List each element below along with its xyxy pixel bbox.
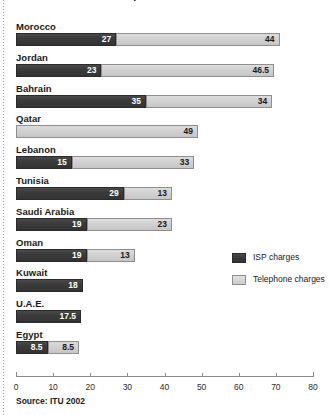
telephone-charges-segment: 13 xyxy=(124,187,172,200)
isp-charges-segment: 19 xyxy=(16,249,87,262)
isp-charges-segment: 17.5 xyxy=(16,310,81,323)
legend-label: ISP charges xyxy=(253,252,299,263)
axis-tick xyxy=(53,373,54,377)
stacked-bar: 8.58.5 xyxy=(16,341,79,354)
stacked-bar: 18 xyxy=(16,279,83,292)
segment-value-label: 19 xyxy=(72,250,85,261)
legend-item: Telephone charges xyxy=(232,274,328,285)
axis-tick xyxy=(90,373,91,377)
segment-value-label: 34 xyxy=(258,96,271,107)
x-axis: 01020304050607080 xyxy=(16,376,313,377)
country-label: Egypt xyxy=(16,329,43,340)
axis-tick xyxy=(276,373,277,377)
axis-tick xyxy=(313,372,314,377)
country-label: Lebanon xyxy=(16,144,56,155)
segment-value-label: 19 xyxy=(72,219,85,230)
country-label: Saudi Arabia xyxy=(16,206,74,217)
axis-tick-label: 80 xyxy=(308,382,317,392)
segment-value-label: 46.5 xyxy=(252,65,273,76)
country-label: U.A.E. xyxy=(16,298,44,309)
segment-value-label: 35 xyxy=(131,96,144,107)
segment-value-label: 33 xyxy=(180,157,193,168)
country-label: Morocco xyxy=(16,21,56,32)
axis-tick-label: 20 xyxy=(86,382,95,392)
bar-chart-plot-area: Morocco2744Jordan2346.5Bahrain3534Qatar4… xyxy=(0,0,330,415)
country-label: Tunisia xyxy=(16,175,49,186)
segment-value-label: 13 xyxy=(157,188,170,199)
axis-tick xyxy=(165,373,166,377)
segment-value-label: 15 xyxy=(57,157,70,168)
segment-value-label: 27 xyxy=(102,34,115,45)
segment-value-label: 23 xyxy=(87,65,100,76)
segment-value-label: 8.5 xyxy=(62,342,78,353)
axis-tick-label: 50 xyxy=(197,382,206,392)
segment-value-label: 17.5 xyxy=(59,311,80,322)
stacked-bar: 1913 xyxy=(16,249,135,262)
stacked-bar: 1923 xyxy=(16,218,172,231)
isp-charges-segment: 35 xyxy=(16,95,146,108)
segment-value-label: 23 xyxy=(157,219,170,230)
telephone-charges-segment: 34 xyxy=(146,95,272,108)
telephone-charges-segment: 49 xyxy=(16,125,198,138)
stacked-bar: 17.5 xyxy=(16,310,81,323)
axis-tick-label: 10 xyxy=(48,382,57,392)
country-label: Bahrain xyxy=(16,83,52,94)
stacked-bar: 2346.5 xyxy=(16,64,274,77)
legend-label: Telephone charges xyxy=(253,274,325,285)
legend-swatch-telephone xyxy=(232,275,246,285)
axis-tick-label: 60 xyxy=(234,382,243,392)
segment-value-label: 29 xyxy=(109,188,122,199)
segment-value-label: 13 xyxy=(120,250,133,261)
country-label: Oman xyxy=(16,237,43,248)
stacked-bar: 3534 xyxy=(16,95,272,108)
telephone-charges-segment: 44 xyxy=(116,33,279,46)
legend-item: ISP charges xyxy=(232,252,328,263)
segment-value-label: 8.5 xyxy=(31,342,47,353)
axis-tick xyxy=(127,373,128,377)
telephone-charges-segment: 46.5 xyxy=(101,64,274,77)
axis-tick-label: 70 xyxy=(271,382,280,392)
isp-charges-segment: 19 xyxy=(16,218,87,231)
axis-tick-label: 0 xyxy=(14,382,19,392)
axis-tick-label: 30 xyxy=(123,382,132,392)
chart-legend: ISP chargesTelephone charges xyxy=(232,252,328,296)
stacked-bar: 49 xyxy=(16,125,198,138)
stacked-bar: 1533 xyxy=(16,156,194,169)
stacked-bar: 2913 xyxy=(16,187,172,200)
axis-tick-label: 40 xyxy=(160,382,169,392)
country-label: Qatar xyxy=(16,113,41,124)
telephone-charges-segment: 33 xyxy=(72,156,195,169)
country-label: Kuwait xyxy=(16,267,47,278)
isp-charges-segment: 27 xyxy=(16,33,116,46)
segment-value-label: 18 xyxy=(68,280,81,291)
axis-tick xyxy=(16,372,17,377)
axis-tick xyxy=(202,373,203,377)
legend-swatch-isp xyxy=(232,253,246,263)
country-label: Jordan xyxy=(16,52,48,63)
telephone-charges-segment: 23 xyxy=(87,218,172,231)
stacked-bar: 2744 xyxy=(16,33,280,46)
segment-value-label: 49 xyxy=(183,126,196,137)
telephone-charges-segment: 13 xyxy=(87,249,135,262)
isp-charges-segment: 15 xyxy=(16,156,72,169)
segment-value-label: 44 xyxy=(265,34,278,45)
isp-charges-segment: 8.5 xyxy=(16,341,48,354)
source-note: Source: ITU 2002 xyxy=(16,396,85,406)
isp-charges-segment: 23 xyxy=(16,64,101,77)
isp-charges-segment: 18 xyxy=(16,279,83,292)
axis-tick xyxy=(239,373,240,377)
isp-charges-segment: 29 xyxy=(16,187,124,200)
telephone-charges-segment: 8.5 xyxy=(48,341,80,354)
